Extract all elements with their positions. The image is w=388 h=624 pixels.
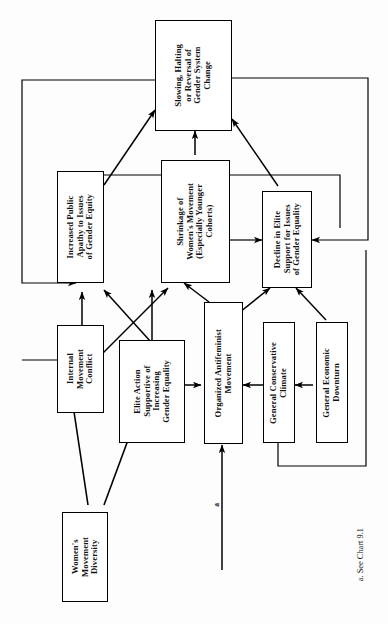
node-womens-movement-diversity-label: Women's Movement Diversity bbox=[71, 537, 100, 577]
edge-elitedecline-to-outcome bbox=[232, 119, 278, 186]
node-organized-antifeminist-movement[interactable]: Organized Antifeminist Movement bbox=[204, 302, 243, 444]
node-shrinkage-womens-movement[interactable]: Shrinkage of Women's Movement (Especiall… bbox=[161, 160, 230, 283]
edge-antifeminist-to-shrinkage bbox=[184, 283, 209, 302]
edge-downturn-to-elitedecline bbox=[296, 288, 326, 320]
node-outcome[interactable]: Slowing, Halting or Reversal of Gender S… bbox=[155, 20, 232, 131]
edge-helper-a bbox=[22, 141, 77, 155]
footnote-marker-a: a bbox=[212, 503, 221, 507]
footnote-see-chart: a. See Chart 9.1 bbox=[356, 528, 365, 581]
node-general-conservative-climate-label: General Conservative Climate bbox=[269, 342, 288, 424]
node-elite-action-supportive[interactable]: Elite Action Supportive of Increasing Ge… bbox=[119, 340, 185, 443]
edge-apathy-to-outcome bbox=[104, 110, 155, 185]
node-decline-elite-support-label: Decline in Elite Support for Issues of G… bbox=[273, 203, 302, 275]
node-increased-public-apathy[interactable]: Increased Public Apathy to Issues of Gen… bbox=[57, 171, 104, 283]
node-general-economic-downturn[interactable]: General Economic Downturn bbox=[316, 322, 348, 443]
node-internal-movement-conflict[interactable]: Internal Movement Conflict bbox=[57, 325, 104, 413]
flowchart-diagram: Slowing, Halting or Reversal of Gender S… bbox=[0, 0, 388, 624]
node-increased-public-apathy-label: Increased Public Apathy to Issues of Gen… bbox=[66, 194, 95, 259]
node-shrinkage-womens-movement-label: Shrinkage of Women's Movement (Especiall… bbox=[176, 183, 215, 260]
node-decline-elite-support[interactable]: Decline in Elite Support for Issues of G… bbox=[262, 191, 312, 288]
node-elite-action-supportive-label: Elite Action Supportive of Increasing Ge… bbox=[133, 360, 172, 423]
node-general-economic-downturn-label: General Economic Downturn bbox=[322, 348, 341, 418]
node-internal-movement-conflict-label: Internal Movement Conflict bbox=[66, 349, 95, 389]
node-general-conservative-climate[interactable]: General Conservative Climate bbox=[263, 322, 295, 443]
node-organized-antifeminist-movement-label: Organized Antifeminist Movement bbox=[214, 329, 233, 417]
node-outcome-label: Slowing, Halting or Reversal of Gender S… bbox=[174, 44, 213, 107]
node-womens-movement-diversity[interactable]: Women's Movement Diversity bbox=[62, 512, 108, 602]
